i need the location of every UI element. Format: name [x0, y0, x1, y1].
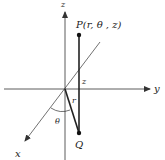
z-axis-label: z	[60, 0, 66, 9]
y-axis-label: y	[153, 83, 160, 94]
theta-arc	[51, 108, 70, 112]
point-q-label: Q	[75, 139, 83, 150]
height-label: z	[81, 77, 87, 86]
point-p-label: P(r, θ , z)	[75, 19, 121, 30]
point-q	[77, 131, 81, 135]
x-axis-label: x	[15, 148, 21, 159]
x-axis	[25, 42, 100, 141]
theta-label: θ	[55, 117, 60, 126]
point-p	[77, 33, 81, 37]
radius-label: r	[72, 96, 77, 105]
cylindrical-coordinates-diagram: z y x P(r, θ , z) Q z r θ	[0, 0, 165, 160]
